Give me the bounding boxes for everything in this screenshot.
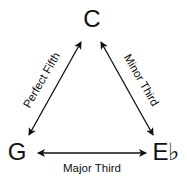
major-third-label: Major Third (63, 162, 121, 174)
perfect-fifth-label: Perfect Fifth (21, 50, 62, 110)
node-e-flat: E♭ (152, 138, 179, 165)
minor-third-label: Minor Third (122, 52, 161, 108)
node-c: C (83, 5, 100, 32)
interval-triangle-diagram: C G E♭ Perfect Fifth Minor Third Major T… (0, 0, 187, 184)
node-g: G (8, 138, 27, 165)
